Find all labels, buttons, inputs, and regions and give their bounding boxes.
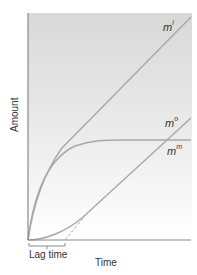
chart: Lag time Time Amount mi mo mm xyxy=(0,0,197,275)
y-axis-label: Amount xyxy=(9,97,20,132)
x-axis-label: Time xyxy=(95,257,117,268)
lag-time-label: Lag time xyxy=(29,249,68,260)
